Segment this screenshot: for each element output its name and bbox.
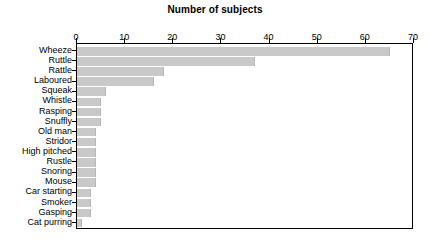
y-axis-category-label: Gasping bbox=[0, 207, 72, 217]
bar-row bbox=[77, 137, 414, 147]
bar-row bbox=[77, 97, 414, 107]
y-axis-category-label: Wheeze bbox=[0, 45, 72, 55]
y-axis-category-label: High pitched bbox=[0, 146, 72, 156]
bar bbox=[77, 219, 82, 227]
y-axis-category-label: Mouse bbox=[0, 176, 72, 186]
bar-row bbox=[77, 218, 414, 228]
y-axis-category-label: Cat purring bbox=[0, 217, 72, 227]
y-axis-category-label: Rasping bbox=[0, 106, 72, 116]
bar-row bbox=[77, 157, 414, 167]
bar-row bbox=[77, 198, 414, 208]
bar bbox=[77, 148, 96, 156]
bar-chart-figure: Number of subjects 010203040506070 Wheez… bbox=[0, 0, 430, 244]
bar bbox=[77, 128, 96, 136]
bar-row bbox=[77, 147, 414, 157]
bar bbox=[77, 87, 106, 95]
y-axis-category-label: Whistle bbox=[0, 95, 72, 105]
y-axis-category-label: Smoker bbox=[0, 197, 72, 207]
plot-frame bbox=[76, 43, 413, 229]
y-axis-category-labels: WheezeRuttleRattleLabouredSqueakWhistleR… bbox=[0, 43, 72, 229]
bar bbox=[77, 57, 255, 65]
bar-row bbox=[77, 208, 414, 218]
bar bbox=[77, 108, 101, 116]
bar-row bbox=[77, 107, 414, 117]
bar-row bbox=[77, 46, 414, 56]
y-axis-category-label: Ruttle bbox=[0, 55, 72, 65]
y-axis-category-label: Snoring bbox=[0, 166, 72, 176]
bar-row bbox=[77, 56, 414, 66]
y-axis-category-label: Car starting bbox=[0, 186, 72, 196]
bars-container bbox=[77, 44, 412, 228]
bar bbox=[77, 199, 91, 207]
x-axis-tick bbox=[413, 38, 414, 43]
bar bbox=[77, 138, 96, 146]
y-axis-category-label: Rustle bbox=[0, 156, 72, 166]
bar bbox=[77, 168, 96, 176]
bar bbox=[77, 47, 390, 55]
bar-row bbox=[77, 127, 414, 137]
bar-row bbox=[77, 66, 414, 76]
x-axis-tick-labels: 010203040506070 bbox=[76, 10, 413, 26]
y-axis-category-label: Snuffly bbox=[0, 116, 72, 126]
bar bbox=[77, 209, 91, 217]
bar bbox=[77, 178, 96, 186]
y-axis-category-label: Laboured bbox=[0, 75, 72, 85]
bar bbox=[77, 77, 154, 85]
bar-row bbox=[77, 77, 414, 87]
bar-row bbox=[77, 87, 414, 97]
y-axis-category-label: Stridor bbox=[0, 136, 72, 146]
bar bbox=[77, 118, 101, 126]
bar-row bbox=[77, 117, 414, 127]
bar-row bbox=[77, 178, 414, 188]
y-axis-category-label: Squeak bbox=[0, 85, 72, 95]
bar bbox=[77, 67, 164, 75]
bar bbox=[77, 158, 96, 166]
bar bbox=[77, 98, 101, 106]
bar bbox=[77, 189, 91, 197]
bar-row bbox=[77, 168, 414, 178]
bar-row bbox=[77, 188, 414, 198]
y-axis-category-label: Old man bbox=[0, 126, 72, 136]
y-axis-category-label: Rattle bbox=[0, 65, 72, 75]
